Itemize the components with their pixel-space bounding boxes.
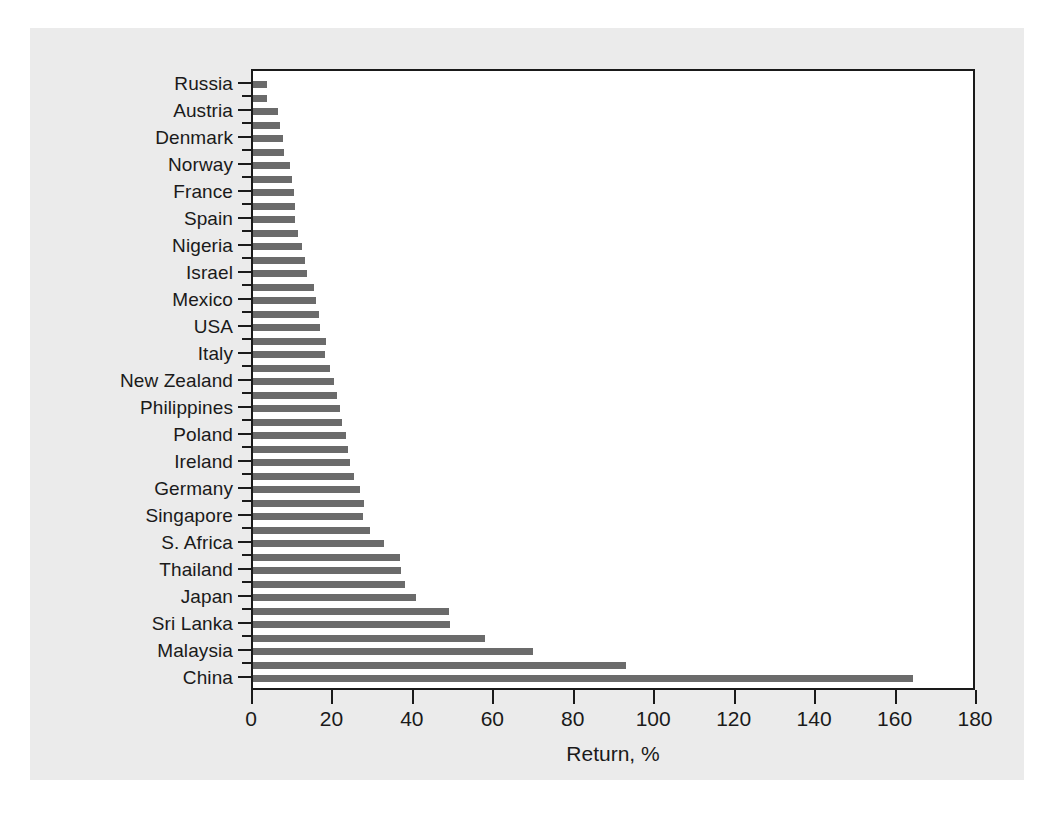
y-axis-tick: [238, 109, 251, 111]
bar: [253, 122, 280, 129]
y-axis-label: Ireland: [174, 452, 233, 471]
y-axis-tick: [242, 554, 251, 556]
bar: [253, 189, 294, 196]
x-axis-tick-label: 100: [636, 707, 671, 731]
x-axis-tick: [895, 690, 897, 704]
y-axis-tick: [238, 406, 251, 408]
y-axis-tick: [238, 136, 251, 138]
x-axis-tick: [653, 690, 655, 704]
y-axis-tick: [242, 338, 251, 340]
bar: [253, 365, 330, 372]
y-axis-tick: [242, 635, 251, 637]
bar: [253, 419, 342, 426]
bar: [253, 648, 533, 655]
y-axis-label: S. Africa: [161, 533, 233, 552]
x-axis-tick-label: 0: [245, 707, 257, 731]
bar: [253, 338, 326, 345]
x-axis-tick: [412, 690, 414, 704]
bar: [253, 581, 405, 588]
y-axis-tick: [238, 568, 251, 570]
x-axis-title: Return, %: [251, 742, 975, 766]
bar: [253, 405, 340, 412]
bar: [253, 635, 485, 642]
y-axis-tick: [238, 352, 251, 354]
y-axis-tick: [242, 365, 251, 367]
y-axis-label: Mexico: [172, 290, 233, 309]
bar: [253, 608, 449, 615]
bar: [253, 351, 325, 358]
y-axis: RussiaAustriaDenmarkNorwayFranceSpainNig…: [0, 69, 251, 690]
y-axis-label: Japan: [181, 587, 233, 606]
x-axis-tick-label: 60: [481, 707, 504, 731]
y-axis-label: Norway: [168, 155, 233, 174]
y-axis-tick: [238, 244, 251, 246]
x-axis-tick: [975, 690, 977, 704]
bar: [253, 81, 267, 88]
bar: [253, 297, 316, 304]
bar: [253, 108, 278, 115]
bar: [253, 500, 364, 507]
y-axis-label: Malaysia: [157, 641, 233, 660]
y-axis-tick: [242, 311, 251, 313]
bar: [253, 513, 363, 520]
y-axis-tick: [238, 379, 251, 381]
y-axis-tick: [242, 176, 251, 178]
bar: [253, 243, 302, 250]
bar: [253, 594, 416, 601]
y-axis-tick: [242, 95, 251, 97]
bar: [253, 540, 384, 547]
y-axis-tick: [242, 203, 251, 205]
y-axis-tick: [242, 527, 251, 529]
y-axis-label: New Zealand: [120, 371, 233, 390]
bar: [253, 311, 319, 318]
bar: [253, 675, 913, 682]
y-axis-label: Germany: [154, 479, 233, 498]
y-axis-tick: [242, 122, 251, 124]
bar: [253, 270, 307, 277]
x-axis-tick: [331, 690, 333, 704]
y-axis-tick: [238, 190, 251, 192]
bar: [253, 149, 284, 156]
y-axis-tick: [242, 662, 251, 664]
x-axis-tick: [734, 690, 736, 704]
bar: [253, 162, 290, 169]
y-axis-label: Philippines: [140, 398, 233, 417]
bar: [253, 473, 354, 480]
bar: [253, 378, 334, 385]
x-axis-tick: [573, 690, 575, 704]
y-axis-tick: [238, 676, 251, 678]
bar: [253, 486, 360, 493]
y-axis-tick: [238, 298, 251, 300]
bars-layer: [253, 71, 973, 688]
bar: [253, 95, 267, 102]
bar: [253, 135, 283, 142]
x-axis-tick-label: 80: [561, 707, 584, 731]
y-axis-label: Italy: [198, 344, 233, 363]
bar: [253, 662, 626, 669]
y-axis-tick: [242, 230, 251, 232]
chart-figure: RussiaAustriaDenmarkNorwayFranceSpainNig…: [0, 0, 1054, 821]
y-axis-label: Thailand: [159, 560, 233, 579]
y-axis-tick: [238, 217, 251, 219]
bar: [253, 621, 450, 628]
plot-area: [251, 69, 975, 690]
y-axis-label: Singapore: [145, 506, 233, 525]
bar: [253, 257, 305, 264]
y-axis-tick: [238, 271, 251, 273]
y-axis-label: Denmark: [155, 128, 233, 147]
x-axis-tick: [814, 690, 816, 704]
y-axis-label: Austria: [173, 101, 233, 120]
y-axis-tick: [238, 163, 251, 165]
y-axis-tick: [238, 649, 251, 651]
bar: [253, 527, 370, 534]
bar: [253, 432, 346, 439]
bar: [253, 203, 295, 210]
y-axis-tick: [238, 433, 251, 435]
bar: [253, 446, 348, 453]
y-axis-tick: [242, 473, 251, 475]
y-axis-label: Spain: [184, 209, 233, 228]
y-axis-label: Sri Lanka: [152, 614, 233, 633]
y-axis-tick: [242, 500, 251, 502]
x-axis-tick-label: 20: [320, 707, 343, 731]
x-axis: 020406080100120140160180: [251, 690, 975, 750]
